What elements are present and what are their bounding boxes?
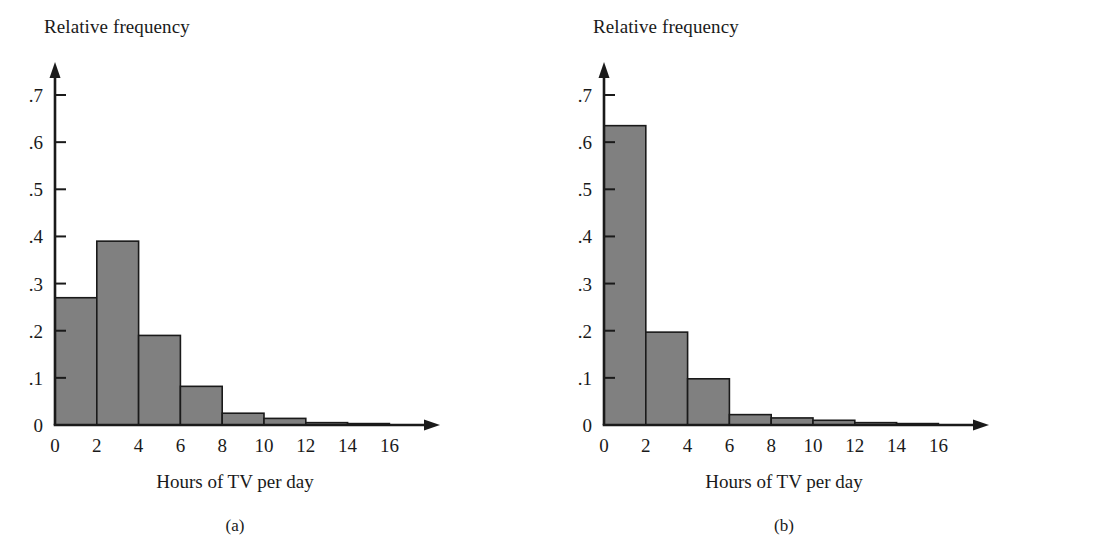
x-axis-title-b: Hours of TV per day [549, 471, 1019, 493]
x-tick-label: 6 [725, 435, 735, 456]
x-axis-arrowhead [973, 420, 989, 431]
x-tick-label: 16 [380, 435, 399, 456]
x-tick-label: 0 [50, 435, 60, 456]
y-tick-label: 0 [34, 415, 44, 436]
x-tick-label: 12 [845, 435, 864, 456]
panel-caption-a: (a) [0, 516, 470, 536]
y-tick-label: .1 [578, 368, 592, 389]
histogram-panel-b: Relative frequency 0.1.2.3.4.5.6.7024681… [549, 0, 1097, 553]
x-axis-ticks: 0246810121416 [599, 435, 948, 456]
x-tick-label: 4 [134, 435, 144, 456]
histogram-bar [222, 413, 264, 425]
histogram-bar [97, 241, 139, 425]
y-tick-label: 0 [583, 415, 593, 436]
x-tick-label: 16 [929, 435, 948, 456]
y-axis-arrowhead [599, 62, 610, 78]
histogram-bar [139, 335, 181, 425]
x-tick-label: 10 [804, 435, 823, 456]
y-tick-label: .5 [29, 179, 43, 200]
y-axis-arrowhead [50, 62, 61, 78]
x-tick-label: 14 [887, 435, 907, 456]
x-tick-label: 2 [641, 435, 651, 456]
histogram-bars [604, 126, 938, 425]
x-axis-arrowhead [424, 420, 440, 431]
x-tick-label: 2 [92, 435, 102, 456]
y-tick-label: .6 [578, 132, 592, 153]
y-tick-label: .2 [29, 321, 43, 342]
histogram-bar [646, 332, 688, 425]
y-tick-label: .4 [29, 226, 44, 247]
x-axis-ticks: 0246810121416 [50, 435, 399, 456]
y-tick-label: .1 [29, 368, 43, 389]
histogram-bar [180, 386, 222, 425]
y-tick-label: .7 [29, 85, 43, 106]
histogram-bar [729, 415, 771, 425]
histogram-bar [55, 298, 97, 425]
x-tick-label: 8 [217, 435, 227, 456]
x-axis-title-a: Hours of TV per day [0, 471, 470, 493]
panel-caption-b: (b) [549, 516, 1019, 536]
y-tick-label: .3 [578, 274, 592, 295]
x-tick-label: 10 [255, 435, 274, 456]
histogram-panel-a: Relative frequency 0.1.2.3.4.5.6.7024681… [0, 0, 548, 553]
x-tick-label: 4 [683, 435, 693, 456]
histogram-bars [55, 241, 389, 425]
y-tick-label: .4 [578, 226, 593, 247]
y-tick-label: .3 [29, 274, 43, 295]
two-panel-histogram-figure: Relative frequency 0.1.2.3.4.5.6.7024681… [0, 0, 1097, 553]
y-tick-label: .2 [578, 321, 592, 342]
x-tick-label: 12 [296, 435, 315, 456]
y-tick-label: .7 [578, 85, 592, 106]
x-tick-label: 8 [766, 435, 776, 456]
y-tick-label: .6 [29, 132, 43, 153]
histogram-bar [688, 379, 730, 425]
x-tick-label: 0 [599, 435, 609, 456]
x-tick-label: 6 [176, 435, 186, 456]
histogram-bar [604, 126, 646, 425]
x-tick-label: 14 [338, 435, 358, 456]
y-tick-label: .5 [578, 179, 592, 200]
